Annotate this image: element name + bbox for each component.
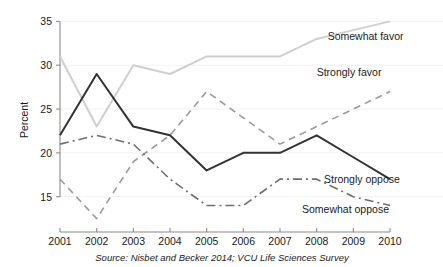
chart-container: 1520253035 20012002200320042005200620072… (0, 0, 443, 267)
y-tick-label: 30 (40, 59, 52, 71)
series-lines (60, 21, 390, 218)
y-axis-title: Percent (18, 102, 30, 138)
series-label: Strongly oppose (324, 173, 400, 185)
x-tick-label: 2001 (48, 235, 72, 247)
series-line (60, 135, 390, 205)
x-tick-label: 2006 (232, 235, 256, 247)
y-tick-label: 25 (40, 103, 52, 115)
series-label: Somewhat oppose (302, 203, 389, 215)
series-label: Strongly favor (317, 66, 382, 78)
series-label: Somewhat favor (328, 30, 404, 42)
line-chart: 1520253035 20012002200320042005200620072… (0, 0, 443, 267)
gridlines (60, 21, 443, 196)
x-tick-label: 2003 (122, 235, 146, 247)
series-line (60, 92, 390, 219)
y-tick-label: 20 (40, 147, 52, 159)
series-labels: Somewhat favorStrongly favorStrongly opp… (302, 30, 404, 216)
x-tick-label: 2010 (378, 235, 402, 247)
y-tick-label: 15 (40, 191, 52, 203)
series-line (60, 74, 390, 179)
x-tick-label: 2002 (85, 235, 109, 247)
x-tick-label: 2009 (342, 235, 366, 247)
source-caption: Source: Nisbet and Becker 2014; VCU Life… (95, 252, 350, 263)
x-tick-label: 2008 (305, 235, 329, 247)
x-tick-label: 2007 (268, 235, 292, 247)
x-axis-ticks: 2001200220032004200520062007200820092010 (48, 228, 402, 247)
y-axis-ticks: 1520253035 (40, 15, 60, 202)
y-tick-label: 35 (40, 15, 52, 27)
x-tick-label: 2004 (158, 235, 182, 247)
x-tick-label: 2005 (195, 235, 219, 247)
